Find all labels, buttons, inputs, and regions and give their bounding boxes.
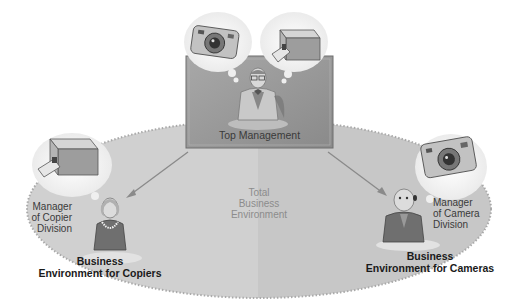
camera-manager-line2: of Camera: [433, 208, 493, 219]
camera-environment-label: Business Environment for Cameras: [360, 251, 500, 274]
copier-manager-line3: Division: [20, 223, 72, 234]
camera-manager-line3: Division: [433, 219, 493, 230]
camera-icon: [190, 25, 239, 59]
total-environment-line1: Total: [220, 187, 298, 198]
total-environment-label: Total Business Environment: [220, 187, 298, 220]
top-management-label: Top Management: [186, 130, 333, 141]
camera-manager-label: Manager of Camera Division: [433, 197, 493, 230]
copier-environment-line1: Business: [20, 256, 180, 268]
total-environment-line3: Environment: [220, 209, 298, 220]
copier-environment-line2: Environment for Copiers: [20, 268, 180, 280]
camera-manager-line1: Manager: [433, 197, 493, 208]
camera-environment-line2: Environment for Cameras: [360, 263, 500, 275]
total-environment-line2: Business: [220, 198, 298, 209]
copier-environment-label: Business Environment for Copiers: [20, 256, 180, 279]
copier-manager-label: Manager of Copier Division: [20, 201, 72, 234]
copier-manager-line1: Manager: [20, 201, 72, 212]
camera-environment-line1: Business: [360, 251, 500, 263]
copier-manager-line2: of Copier: [20, 212, 72, 223]
